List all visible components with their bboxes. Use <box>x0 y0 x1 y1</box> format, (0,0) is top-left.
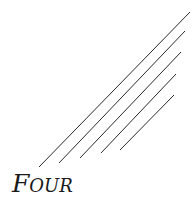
diagonal-line-4 <box>101 74 176 153</box>
diagonal-line-3 <box>80 52 181 158</box>
four-title: Four <box>12 171 73 196</box>
diagonal-line-2 <box>59 31 185 163</box>
diagonal-line-1 <box>39 12 190 167</box>
diagonal-line-5 <box>120 95 174 150</box>
